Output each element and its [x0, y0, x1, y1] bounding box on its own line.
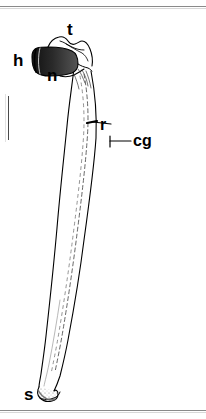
- label-t: t: [67, 21, 73, 38]
- shaft-outer-margin: [39, 68, 74, 387]
- neck-hatching: [74, 69, 91, 89]
- specimen-outline: [32, 37, 97, 402]
- label-r: r: [100, 117, 106, 133]
- neck-outline-upper: [78, 64, 92, 71]
- shaft-inner-margin: [54, 71, 96, 391]
- label-cg: cg: [133, 133, 152, 149]
- label-s: s: [24, 386, 33, 403]
- label-h: h: [13, 52, 23, 69]
- label-n: n: [47, 67, 57, 84]
- shaft-inner-contour: [44, 300, 60, 386]
- figure-panel: t h n r cg s: [0, 0, 206, 419]
- label-leader-lines: [93, 122, 131, 147]
- specimen-drawing: [0, 0, 206, 419]
